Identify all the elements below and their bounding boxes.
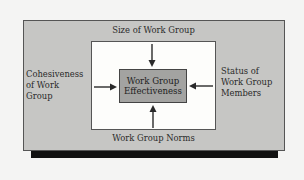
arrow-up-icon [149, 104, 157, 128]
drop-shadow-bar [31, 150, 278, 158]
factor-size-of-work-group: Size of Work Group [91, 25, 216, 36]
factor-cohesiveness-line3: Group [26, 91, 83, 102]
factor-cohesiveness: Cohesiveness of Work Group [26, 69, 83, 102]
center-line2: Effectiveness [124, 86, 182, 96]
factor-status-line1: Status of [221, 66, 272, 77]
factor-cohesiveness-line1: Cohesiveness [26, 69, 83, 80]
arrow-right-icon [94, 83, 118, 91]
factor-status-line3: Members [221, 88, 272, 99]
diagram-canvas: Size of Work Group Cohesiveness of Work … [0, 0, 304, 180]
factor-work-group-norms: Work Group Norms [91, 133, 216, 144]
arrow-down-icon [148, 44, 156, 68]
center-line1: Work Group [124, 76, 182, 86]
factor-status-line2: Work Group [221, 77, 272, 88]
work-group-effectiveness-box: Work Group Effectiveness [119, 69, 187, 103]
factor-cohesiveness-line2: of Work [26, 80, 83, 91]
arrow-left-icon [188, 82, 213, 90]
factor-status-of-members: Status of Work Group Members [221, 66, 272, 99]
